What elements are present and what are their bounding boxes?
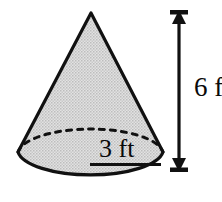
- cone-diagram: 6 ft 3 ft: [0, 0, 222, 202]
- cone-body: [18, 13, 163, 175]
- height-label: 6 ft: [194, 74, 222, 101]
- height-arrow-cap-bottom: [170, 168, 188, 173]
- cone-drawing: [0, 0, 222, 202]
- cone-fill: [18, 13, 163, 175]
- height-dimension-arrow: [170, 10, 188, 172]
- radius-label: 3 ft: [99, 136, 134, 162]
- height-arrow-cap-top: [170, 10, 188, 15]
